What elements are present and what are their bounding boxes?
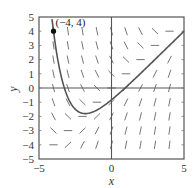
slope-segment [96, 27, 98, 35]
slope-segment [96, 141, 99, 149]
slope-segment [154, 126, 155, 134]
slope-segment [139, 112, 141, 120]
x-tick-label-5: 5 [181, 162, 187, 174]
slope-segment [67, 27, 68, 35]
y-tick-label: 1 [29, 68, 35, 80]
slope-segment [81, 70, 84, 78]
direction-field-chart: (−4, 4) 543210−1−2−3−4−5 −5 0 5 x y [0, 0, 194, 188]
slope-segment [82, 27, 83, 35]
slope-segment [169, 98, 171, 106]
x-tick-label-0: 0 [109, 162, 115, 174]
slope-segment [95, 70, 99, 77]
slope-segment [168, 56, 172, 63]
initial-point-label: (−4, 4) [56, 16, 86, 29]
slope-segment [139, 27, 143, 34]
y-tick-label: −3 [22, 124, 34, 136]
slope-segment [65, 142, 71, 148]
x-tick-label-neg5: −5 [33, 162, 45, 174]
slope-segment [79, 99, 85, 105]
y-tick-label: 3 [29, 39, 35, 51]
slope-segment [125, 127, 127, 135]
y-tick-label: 4 [29, 25, 35, 37]
slope-segment [81, 56, 83, 64]
solution-curve [52, 19, 184, 113]
slope-segment [50, 128, 56, 134]
slope-segment [140, 126, 142, 134]
slope-segment [94, 113, 100, 119]
slope-segment [140, 141, 141, 149]
slope-segment [168, 70, 171, 78]
slope-segment [53, 55, 54, 63]
slope-segment [137, 42, 143, 48]
slope-segment [139, 98, 142, 106]
x-axis-label: x [108, 174, 115, 188]
y-tick-label: −4 [22, 139, 34, 151]
slope-segment [95, 127, 99, 134]
slope-segment [124, 98, 128, 105]
slope-segment [154, 141, 155, 149]
slope-segment [52, 113, 56, 120]
slope-segment [152, 28, 158, 34]
y-tick-labels: 543210−1−2−3−4−5 [22, 11, 34, 165]
slope-segment [52, 98, 55, 106]
slope-segment [67, 41, 68, 49]
slope-segment [154, 112, 156, 120]
slope-segment [153, 70, 157, 77]
zero-axes [39, 17, 184, 159]
slope-segment [67, 70, 69, 78]
slope-segment [96, 56, 99, 64]
slope-segment [125, 112, 128, 120]
y-tick-label: −1 [22, 96, 34, 108]
slope-segment [65, 113, 71, 119]
slope-segment [53, 41, 54, 49]
slope-segment [53, 70, 55, 78]
y-tick-label: −2 [22, 110, 34, 122]
slope-segment [123, 57, 129, 63]
y-tick-label: 2 [29, 53, 35, 65]
slope-segment [169, 126, 170, 134]
slope-segment [154, 98, 156, 106]
slope-segment [81, 141, 85, 148]
slope-segment [125, 141, 127, 149]
slope-segment [82, 41, 84, 49]
slope-segment [169, 141, 170, 149]
slope-segment [96, 41, 98, 49]
y-tick-label: 5 [29, 11, 35, 23]
y-tick-label: 0 [29, 82, 35, 94]
slope-segment [125, 27, 128, 35]
slope-segment [124, 42, 128, 49]
slope-segment [79, 128, 85, 134]
initial-point-marker [51, 29, 56, 34]
slope-segment [67, 55, 69, 63]
y-axis-label: y [6, 86, 20, 93]
slope-segment [169, 112, 170, 120]
